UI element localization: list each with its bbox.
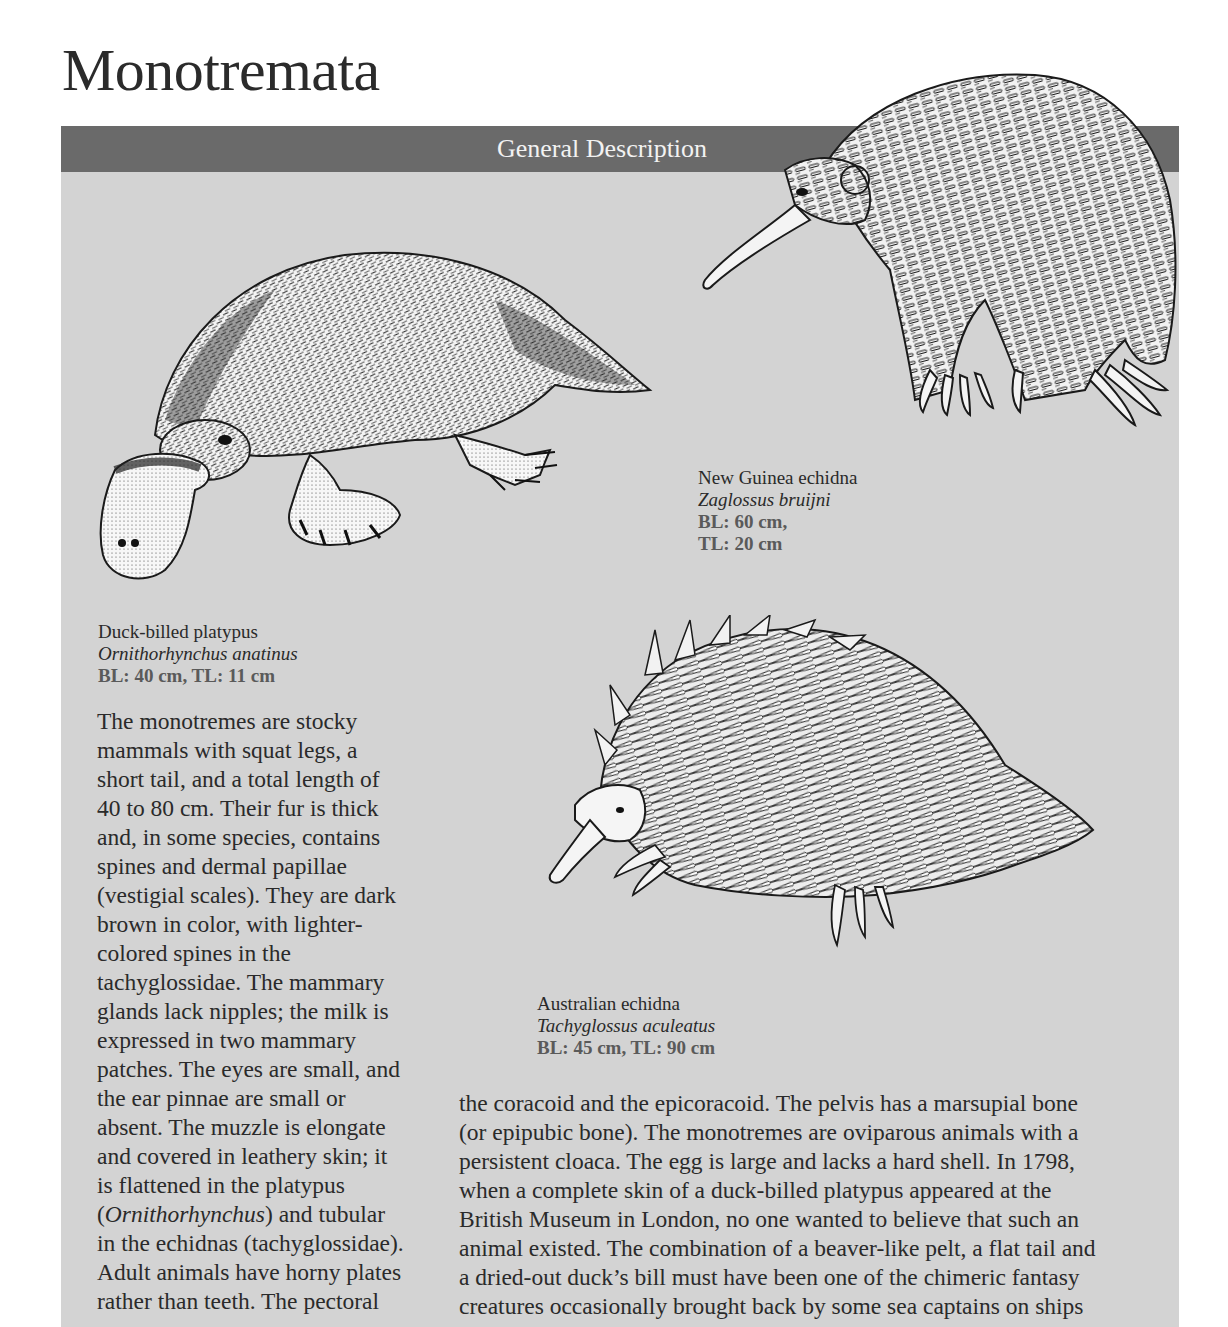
common-name: New Guinea echidna (698, 467, 857, 489)
common-name: Australian echidna (537, 993, 715, 1015)
text-line: spines and dermal papillae (97, 852, 404, 881)
text-line: mammals with squat legs, a (97, 736, 404, 765)
text-line: glands lack nipples; the milk is (97, 997, 404, 1026)
body-text-left-column: The monotremes are stocky mammals with s… (97, 707, 404, 1316)
text-line: British Museum in London, no one wanted … (459, 1205, 1096, 1234)
text-line: (vestigial scales). They are dark (97, 881, 404, 910)
text-line: persistent cloaca. The egg is large and … (459, 1147, 1096, 1176)
measurement: BL: 45 cm, TL: 90 cm (537, 1037, 715, 1059)
australian-echidna-illustration (545, 615, 1105, 960)
platypus-illustration (95, 200, 655, 585)
measurement-tail-length: TL: 20 cm (698, 533, 857, 555)
text-line: a dried-out duck’s bill must have been o… (459, 1263, 1096, 1292)
text-line: 40 to 80 cm. Their fur is thick (97, 794, 404, 823)
text-line: is flattened in the platypus (97, 1171, 404, 1200)
scientific-name: Ornithorhynchus anatinus (98, 643, 298, 665)
measurement: BL: 40 cm, TL: 11 cm (98, 665, 298, 687)
caption-australian-echidna: Australian echidna Tachyglossus aculeatu… (537, 993, 715, 1059)
text-line: (or epipubic bone). The monotremes are o… (459, 1118, 1096, 1147)
text-line: and, in some species, contains (97, 823, 404, 852)
text-line: animal existed. The combination of a bea… (459, 1234, 1096, 1263)
text-line: rather than teeth. The pectoral (97, 1287, 404, 1316)
text-line: patches. The eyes are small, and (97, 1055, 404, 1084)
text-line: in the echidnas (tachyglossidae). (97, 1229, 404, 1258)
caption-platypus: Duck-billed platypus Ornithorhynchus ana… (98, 621, 298, 687)
text-line: brown in color, with lighter- (97, 910, 404, 939)
text-line: Adult animals have horny plates (97, 1258, 404, 1287)
text-line: and covered in leathery skin; it (97, 1142, 404, 1171)
text-line: The monotremes are stocky (97, 707, 404, 736)
text-line: absent. The muzzle is elongate (97, 1113, 404, 1142)
page-title: Monotremata (62, 40, 380, 100)
body-text-right-column: the coracoid and the epicoracoid. The pe… (459, 1089, 1096, 1321)
scientific-name: Zaglossus bruijni (698, 489, 857, 511)
scientific-name: Tachyglossus aculeatus (537, 1015, 715, 1037)
text-line: colored spines in the (97, 939, 404, 968)
text-line: when a complete skin of a duck-billed pl… (459, 1176, 1096, 1205)
text-line: expressed in two mammary (97, 1026, 404, 1055)
measurement-body-length: BL: 60 cm, (698, 511, 857, 533)
text-line-with-italic: (Ornithorhynchus) and tubular (97, 1200, 404, 1229)
text-line: tachyglossidae. The mammary (97, 968, 404, 997)
text-line: short tail, and a total length of (97, 765, 404, 794)
text-line: the coracoid and the epicoracoid. The pe… (459, 1089, 1096, 1118)
genus-name-italic: Ornithorhynchus (105, 1201, 265, 1227)
text-line: creatures occasionally brought back by s… (459, 1292, 1096, 1321)
section-header-label: General Description (497, 134, 707, 164)
new-guinea-echidna-illustration (695, 70, 1185, 430)
common-name: Duck-billed platypus (98, 621, 298, 643)
document-page: Monotremata General Description (0, 0, 1228, 1327)
text-line: the ear pinnae are small or (97, 1084, 404, 1113)
caption-new-guinea-echidna: New Guinea echidna Zaglossus bruijni BL:… (698, 467, 857, 555)
